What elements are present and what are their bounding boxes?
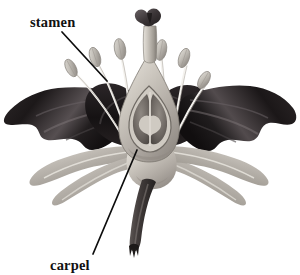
- flower-illustration: stamen carpel: [0, 0, 300, 275]
- stem-group: [129, 179, 156, 258]
- anther-2: [87, 46, 103, 68]
- style: [143, 26, 157, 63]
- carpel-group: [119, 9, 180, 162]
- stigma: [135, 9, 161, 27]
- stem: [130, 179, 156, 251]
- stem-cut-end: [129, 244, 139, 258]
- flower-diagram-figure: stamen carpel: [0, 0, 300, 275]
- stamen-label: stamen: [30, 14, 76, 30]
- anther-5: [176, 47, 192, 69]
- anther-3: [113, 38, 128, 61]
- carpel-label: carpel: [50, 257, 90, 273]
